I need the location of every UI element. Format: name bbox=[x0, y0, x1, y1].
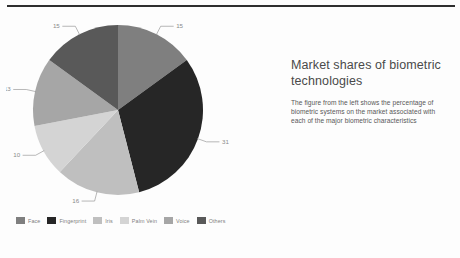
legend-item-label: Voice bbox=[176, 218, 190, 224]
text-panel: Market shares of biometric technologies … bbox=[291, 58, 451, 126]
chart-legend: FaceFingerprintIrisPalm VeinVoiceOthers bbox=[16, 216, 266, 225]
legend-item[interactable]: Voice bbox=[164, 216, 190, 225]
legend-item-label: Palm Vein bbox=[132, 218, 157, 224]
slide-canvas: 153116101315 FaceFingerprintIrisPalm Vei… bbox=[0, 0, 460, 258]
pie-chart-svg[interactable]: 153116101315 bbox=[6, 10, 256, 210]
pie-value-label: 13 bbox=[6, 85, 11, 92]
legend-swatch-icon bbox=[197, 217, 206, 224]
pie-leader-line bbox=[13, 89, 36, 91]
legend-item-label: Fingerprint bbox=[59, 218, 86, 224]
pie-leader-line bbox=[156, 26, 173, 35]
pie-leader-line bbox=[62, 26, 79, 35]
legend-item-label: Face bbox=[28, 218, 40, 224]
pie-value-label: 15 bbox=[53, 22, 60, 29]
pie-value-label: 10 bbox=[13, 151, 20, 158]
legend-item[interactable]: Others bbox=[197, 216, 226, 225]
pie-value-label: 16 bbox=[72, 197, 79, 204]
pie-value-label: 15 bbox=[176, 22, 183, 29]
legend-item[interactable]: Face bbox=[16, 216, 40, 225]
pie-leader-line bbox=[197, 139, 219, 142]
pie-value-label: 31 bbox=[222, 138, 229, 145]
pie-leader-line bbox=[82, 192, 97, 202]
top-divider-rule bbox=[7, 5, 455, 7]
legend-swatch-icon bbox=[120, 217, 129, 224]
panel-title: Market shares of biometric technologies bbox=[291, 58, 451, 89]
legend-item[interactable]: Iris bbox=[93, 216, 113, 225]
pie-slice-group bbox=[33, 25, 203, 195]
panel-body-text: The figure from the left shows the perce… bbox=[291, 98, 451, 126]
legend-swatch-icon bbox=[47, 217, 56, 224]
legend-item-label: Iris bbox=[105, 218, 113, 224]
legend-item[interactable]: Fingerprint bbox=[47, 216, 86, 225]
legend-swatch-icon bbox=[16, 217, 25, 224]
legend-swatch-icon bbox=[164, 217, 173, 224]
legend-item-label: Others bbox=[209, 218, 226, 224]
legend-swatch-icon bbox=[93, 217, 102, 224]
pie-chart[interactable]: 153116101315 bbox=[6, 10, 256, 210]
pie-leader-line bbox=[23, 151, 45, 156]
pie-chart-area: 153116101315 FaceFingerprintIrisPalm Vei… bbox=[6, 10, 266, 250]
legend-item[interactable]: Palm Vein bbox=[120, 216, 157, 225]
